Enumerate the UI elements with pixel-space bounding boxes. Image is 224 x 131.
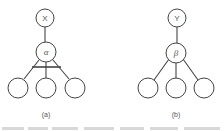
tree-diagram-canvas: X α (a) Y β (b) bbox=[0, 0, 224, 131]
node-x-label: X bbox=[42, 14, 48, 23]
edge-alpha-child-3 bbox=[53, 60, 69, 79]
panel-b: Y β (b) bbox=[138, 9, 214, 119]
edge-beta-child-1 bbox=[154, 59, 169, 80]
child-node-b2 bbox=[166, 78, 186, 98]
cropped-footer bbox=[2, 127, 220, 130]
child-node-b1 bbox=[138, 78, 158, 98]
edge-alpha-child-1 bbox=[24, 60, 39, 79]
node-y-label: Y bbox=[174, 14, 180, 23]
node-beta-label: β bbox=[173, 48, 179, 58]
caption-b: (b) bbox=[172, 111, 181, 119]
child-node-a1 bbox=[8, 78, 28, 98]
node-alpha-label: α bbox=[44, 47, 49, 57]
edge-beta-child-3 bbox=[183, 59, 198, 80]
panel-a: X α (a) bbox=[8, 9, 85, 119]
caption-a: (a) bbox=[42, 111, 51, 119]
child-node-b3 bbox=[194, 78, 214, 98]
child-node-a2 bbox=[36, 78, 56, 98]
child-node-a3 bbox=[65, 78, 85, 98]
